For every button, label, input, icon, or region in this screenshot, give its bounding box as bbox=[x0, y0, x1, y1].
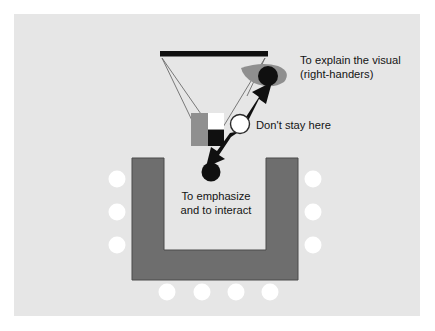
slide-black-square bbox=[208, 130, 224, 146]
figure-root: To explain the visual (right-handers) Do… bbox=[0, 0, 435, 331]
seat-right-1 bbox=[305, 171, 322, 188]
seat-bottom-2 bbox=[194, 284, 211, 301]
seat-bottom-3 bbox=[228, 284, 245, 301]
presenter-neutral-position bbox=[231, 115, 250, 134]
label-explain-line2: (right-handers) bbox=[300, 68, 374, 80]
seat-bottom-1 bbox=[159, 284, 176, 301]
seat-right-2 bbox=[305, 204, 322, 221]
presenter-at-screen bbox=[258, 66, 278, 86]
seats-left bbox=[109, 171, 126, 254]
label-explain-line1: To explain the visual bbox=[300, 54, 401, 66]
seat-right-3 bbox=[305, 237, 322, 254]
label-dont-stay-here: Don't stay here bbox=[256, 119, 331, 131]
seat-bottom-4 bbox=[262, 284, 279, 301]
seat-left-1 bbox=[109, 171, 126, 188]
label-emphasize-line2: and to interact bbox=[181, 204, 253, 216]
seat-left-3 bbox=[109, 237, 126, 254]
presenter-in-u-opening bbox=[202, 163, 221, 182]
slide-white-square bbox=[208, 113, 224, 129]
presentation-room-diagram: To explain the visual (right-handers) Do… bbox=[0, 0, 435, 331]
projection-screen-bar bbox=[160, 51, 268, 57]
seats-right bbox=[305, 171, 322, 254]
label-emphasize-line1: To emphasize bbox=[181, 190, 250, 202]
seat-left-2 bbox=[109, 204, 126, 221]
